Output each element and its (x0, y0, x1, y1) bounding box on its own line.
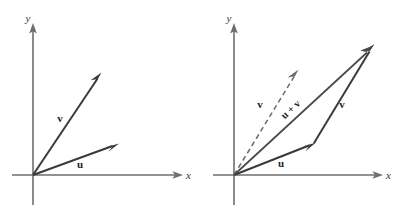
two-vectors-panel: y x v u (12, 12, 191, 205)
vector-u-shaft (33, 146, 113, 175)
y-axis: y (226, 12, 238, 205)
vector-v-arrowhead (91, 73, 102, 86)
vector-v: v (33, 73, 102, 176)
y-axis-label: y (226, 12, 232, 24)
vector-u-plus-v-shaft (234, 53, 367, 176)
vector-v-dashed-shaft (234, 76, 295, 175)
vector-v-shaft (33, 79, 98, 176)
vector-u: u (33, 144, 119, 176)
vector-u-label: u (278, 157, 284, 169)
vector-u: u (234, 143, 316, 176)
vector-v-translated-label: v (339, 98, 345, 110)
vector-v-dashed-label: v (257, 98, 263, 110)
vector-v-dashed-arrowhead (288, 70, 299, 83)
y-axis-label: y (25, 12, 31, 24)
vector-u-plus-v: u + v (234, 46, 374, 176)
x-axis: x (12, 169, 191, 181)
vector-u-label: u (77, 158, 83, 170)
vector-v-label: v (57, 112, 63, 124)
vector-u-shaft (234, 146, 309, 176)
vector-u-plus-v-label: u + v (279, 97, 303, 121)
y-axis: y (25, 12, 37, 205)
vector-sum-panel: y x v u (213, 12, 391, 205)
x-axis-label: x (185, 169, 191, 181)
x-axis-label: x (385, 169, 391, 181)
vector-addition-figure: y x v u (0, 0, 398, 217)
figure-canvas: y x v u (0, 0, 398, 217)
vector-v-dashed: v (234, 70, 299, 176)
